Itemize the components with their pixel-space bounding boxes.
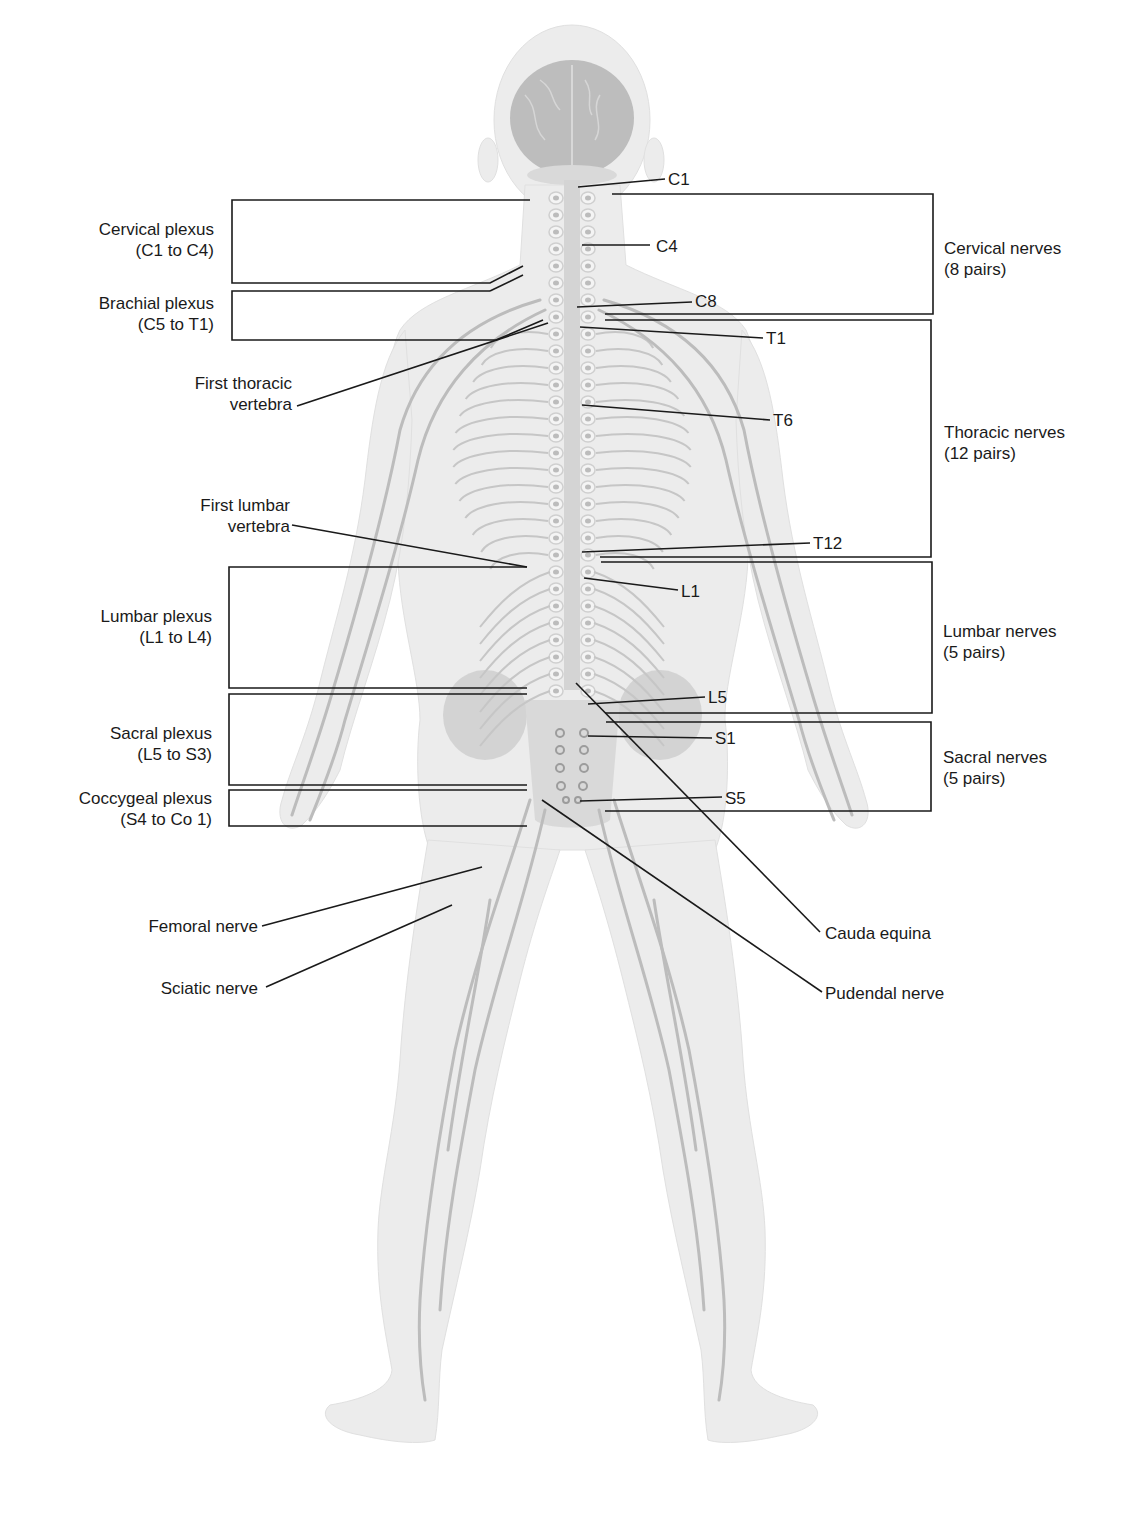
label-cervical-plexus: Cervical plexus (C1 to C4) <box>99 219 214 261</box>
label-line: Coccygeal plexus <box>79 788 212 809</box>
label-cauda-equina: Cauda equina <box>825 923 931 944</box>
label-line: (L1 to L4) <box>100 627 212 648</box>
label-c4: C4 <box>656 236 678 257</box>
label-c1: C1 <box>668 169 690 190</box>
label-line: Brachial plexus <box>99 293 214 314</box>
label-line: Sacral nerves <box>943 747 1047 768</box>
label-s1: S1 <box>715 728 736 749</box>
label-line: Thoracic nerves <box>944 422 1065 443</box>
label-lumbar-nerves: Lumbar nerves (5 pairs) <box>943 621 1056 663</box>
label-thoracic-nerves: Thoracic nerves (12 pairs) <box>944 422 1065 464</box>
label-line: Cervical nerves <box>944 238 1061 259</box>
label-line: (5 pairs) <box>943 642 1056 663</box>
label-brachial-plexus: Brachial plexus (C5 to T1) <box>99 293 214 335</box>
label-first-lumbar-vertebra: First lumbar vertebra <box>200 495 290 537</box>
label-line: Cervical plexus <box>99 219 214 240</box>
label-s5: S5 <box>725 788 746 809</box>
label-line: (S4 to Co 1) <box>79 809 212 830</box>
label-sacral-plexus: Sacral plexus (L5 to S3) <box>110 723 212 765</box>
label-l1: L1 <box>681 581 700 602</box>
label-sciatic-nerve: Sciatic nerve <box>161 978 258 999</box>
left-leg <box>325 840 560 1442</box>
label-line: First thoracic <box>195 373 292 394</box>
right-leg <box>585 840 818 1442</box>
label-line: Cauda equina <box>825 923 931 944</box>
label-line: (C5 to T1) <box>99 314 214 335</box>
label-line: Pudendal nerve <box>825 983 944 1004</box>
label-cervical-nerves: Cervical nerves (8 pairs) <box>944 238 1061 280</box>
label-l5: L5 <box>708 687 727 708</box>
label-line: Sacral plexus <box>110 723 212 744</box>
label-sacral-nerves: Sacral nerves (5 pairs) <box>943 747 1047 789</box>
label-line: vertebra <box>200 516 290 537</box>
label-femoral-nerve: Femoral nerve <box>148 916 258 937</box>
label-t12: T12 <box>813 533 842 554</box>
label-pudendal-nerve: Pudendal nerve <box>825 983 944 1004</box>
label-line: Lumbar nerves <box>943 621 1056 642</box>
label-line: vertebra <box>195 394 292 415</box>
label-line: (8 pairs) <box>944 259 1061 280</box>
label-first-thoracic-vertebra: First thoracic vertebra <box>195 373 292 415</box>
label-t1: T1 <box>766 328 786 349</box>
label-line: First lumbar <box>200 495 290 516</box>
label-line: (C1 to C4) <box>99 240 214 261</box>
label-line: Lumbar plexus <box>100 606 212 627</box>
label-lumbar-plexus: Lumbar plexus (L1 to L4) <box>100 606 212 648</box>
label-t6: T6 <box>773 410 793 431</box>
label-line: (12 pairs) <box>944 443 1065 464</box>
label-line: (L5 to S3) <box>110 744 212 765</box>
label-coccygeal-plexus: Coccygeal plexus (S4 to Co 1) <box>79 788 212 830</box>
label-line: (5 pairs) <box>943 768 1047 789</box>
label-line: Femoral nerve <box>148 916 258 937</box>
label-c8: C8 <box>695 291 717 312</box>
label-line: Sciatic nerve <box>161 978 258 999</box>
